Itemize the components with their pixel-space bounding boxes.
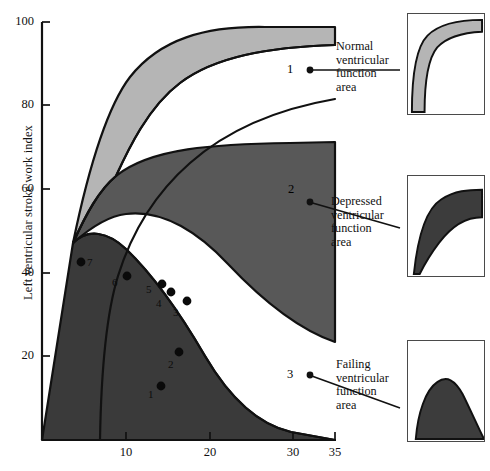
data-point-6 bbox=[123, 272, 132, 281]
legend-depressed-line2: ventricular bbox=[331, 209, 405, 223]
legend-failing-line1: Failing bbox=[336, 358, 410, 372]
data-point-1 bbox=[157, 382, 166, 391]
legend-normal-line4: area bbox=[336, 81, 410, 95]
data-point-label-5: 5 bbox=[146, 283, 152, 295]
legend-normal-line1: Normal bbox=[336, 40, 410, 54]
y-axis-title: Left ventricular stroke work index bbox=[21, 93, 36, 333]
legend-inset-depressed bbox=[407, 175, 485, 277]
data-point-label-4: 4 bbox=[156, 297, 162, 309]
legend-normal-line2: ventricular bbox=[336, 54, 410, 68]
legend-text-failing: Failing ventricular function area bbox=[336, 358, 410, 412]
legend-failing-line4: area bbox=[336, 399, 410, 413]
y-tick-80: 80 bbox=[4, 97, 34, 112]
data-point-2 bbox=[175, 348, 184, 357]
legend-text-depressed: Depressed ventricular function area bbox=[331, 195, 405, 249]
y-axis-ticks bbox=[42, 22, 50, 356]
ventricular-function-chart: Left ventricular stroke work index 100 8… bbox=[0, 0, 490, 471]
region-label-depressed: 2 bbox=[288, 182, 294, 197]
x-tick-20: 20 bbox=[195, 445, 225, 460]
legend-failing-line2: ventricular bbox=[336, 372, 410, 386]
y-tick-60: 60 bbox=[4, 181, 34, 196]
legend-text-normal: Normal ventricular function area bbox=[336, 40, 410, 94]
data-point-label-7: 7 bbox=[87, 256, 93, 268]
legend-failing-line3: function bbox=[336, 385, 410, 399]
legend-depressed-line4: area bbox=[331, 236, 405, 250]
legend-normal-line3: function bbox=[336, 67, 410, 81]
data-point-label-2: 2 bbox=[168, 358, 174, 370]
data-point-4 bbox=[167, 288, 176, 297]
y-tick-100: 100 bbox=[4, 14, 34, 29]
data-point-3 bbox=[183, 297, 192, 306]
x-tick-30: 30 bbox=[278, 445, 308, 460]
legend-inset-normal bbox=[407, 13, 485, 115]
region-label-failing: 3 bbox=[287, 367, 293, 382]
legend-inset-failing bbox=[407, 340, 485, 442]
legend-inset-normal-graphic bbox=[408, 14, 484, 114]
region-label-normal: 1 bbox=[287, 62, 293, 77]
legend-depressed-line1: Depressed bbox=[331, 195, 405, 209]
data-point-label-3: 3 bbox=[173, 306, 179, 318]
legend-inset-depressed-graphic bbox=[408, 176, 484, 276]
data-point-label-6: 6 bbox=[112, 276, 118, 288]
legend-inset-failing-graphic bbox=[408, 341, 484, 441]
data-point-7 bbox=[77, 258, 86, 267]
x-tick-35: 35 bbox=[320, 445, 350, 460]
y-tick-40: 40 bbox=[4, 265, 34, 280]
y-tick-20: 20 bbox=[4, 348, 34, 363]
legend-depressed-line3: function bbox=[331, 222, 405, 236]
x-tick-10: 10 bbox=[111, 445, 141, 460]
data-point-label-1: 1 bbox=[148, 388, 154, 400]
data-point-5 bbox=[158, 280, 167, 289]
